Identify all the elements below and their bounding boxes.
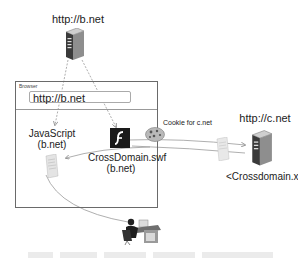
javascript-origin: (b.net) bbox=[27, 139, 77, 150]
cookie-icon bbox=[145, 127, 165, 142]
server-icon bbox=[63, 28, 85, 60]
server-b-label: http://b.net bbox=[48, 13, 108, 25]
flash-swf-name: CrossDomain.swf bbox=[88, 152, 154, 163]
browser-divider bbox=[16, 109, 157, 110]
crossdomain-document-icon bbox=[216, 137, 230, 161]
server-c-label: http://c.net bbox=[235, 112, 295, 124]
address-bar: http://b.net bbox=[29, 91, 131, 103]
flash-swf-origin: (b.net) bbox=[88, 163, 154, 174]
javascript-document-icon bbox=[45, 154, 59, 178]
crossdomain-label: <Crossdomain.xml> bbox=[226, 171, 298, 182]
flash-swf-label: CrossDomain.swf (b.net) bbox=[88, 152, 154, 174]
cookie-label: Cookie for c.net bbox=[163, 119, 212, 126]
user-at-desk-icon bbox=[120, 216, 162, 246]
figure-caption-placeholder bbox=[28, 252, 273, 258]
flash-icon bbox=[110, 128, 130, 148]
javascript-label: JavaScript (b.net) bbox=[27, 128, 77, 150]
browser-title: Browser bbox=[19, 83, 37, 89]
javascript-name: JavaScript bbox=[27, 128, 77, 139]
server-icon bbox=[249, 130, 273, 166]
